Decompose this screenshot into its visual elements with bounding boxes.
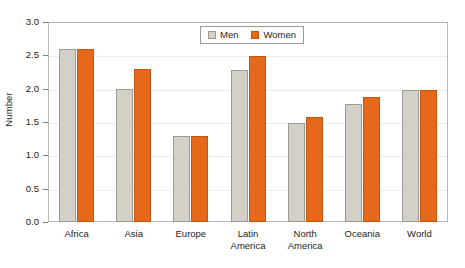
bar-oceania-men [345,104,362,222]
y-axis-tick-label: 0.5 [0,184,39,194]
bars-layer [48,22,448,222]
y-axis-tick-label: 3.0 [0,17,39,27]
bar-world-men [402,90,419,222]
x-axis-label-line: Asia [124,228,142,239]
bar-chart: Number 0.00.51.01.52.02.53.0 AfricaAsiaE… [0,0,465,268]
bar-oceania-women [363,97,380,222]
legend-label: Men [220,30,238,40]
bar-latin-america-women [249,56,266,222]
legend-swatch-men-icon [208,31,216,39]
bar-latin-america-men [231,70,248,222]
y-axis-tick-label: 1.5 [0,117,39,127]
y-axis-tick-label: 0.0 [0,217,39,227]
y-axis-tick-label: 1.0 [0,150,39,160]
bar-africa-men [59,49,76,222]
x-axis-label-line: World [407,228,432,239]
bar-world-women [420,90,437,222]
legend-label: Women [263,30,296,40]
bar-north-america-women [306,117,323,222]
y-axis-tick [43,222,48,223]
legend-entry-women: Women [251,30,296,40]
legend-entry-men: Men [208,30,238,40]
x-axis-label-line: North [294,228,317,239]
x-axis-label-line: America [262,240,348,252]
y-axis-tick-label: 2.5 [0,50,39,60]
bar-europe-women [191,136,208,222]
bar-asia-men [116,89,133,222]
x-axis-label-line: Africa [64,228,88,239]
bar-africa-women [77,49,94,222]
bar-asia-women [134,69,151,222]
x-axis-label-line: Oceania [345,228,380,239]
bar-north-america-men [288,123,305,222]
x-axis-label-line: Latin [238,228,259,239]
y-axis-tick-label: 2.0 [0,84,39,94]
x-axis-label-line: Europe [176,228,207,239]
x-axis-label-world: World [376,228,462,240]
legend-swatch-women-icon [251,31,259,39]
bar-europe-men [173,136,190,222]
chart-legend: MenWomen [200,26,304,44]
